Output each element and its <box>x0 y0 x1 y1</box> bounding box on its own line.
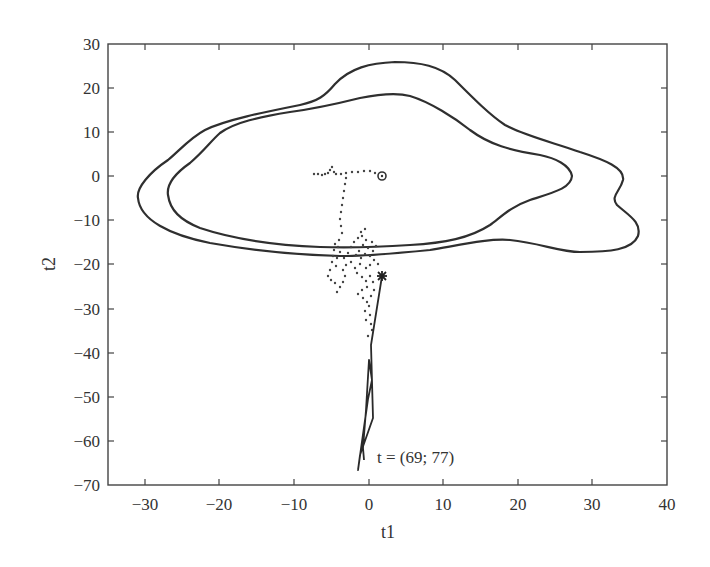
current-point-star-marker <box>377 271 387 281</box>
x-tick-label: 10 <box>435 495 452 514</box>
y-tick-label: −10 <box>73 211 100 230</box>
start-point-marker <box>378 172 386 180</box>
x-axis-label: t1 <box>381 522 395 542</box>
y-tick-label: −40 <box>73 344 100 363</box>
x-tick-label: 20 <box>510 495 527 514</box>
y-tick-label: 30 <box>83 35 100 54</box>
y-axis-label: t2 <box>39 257 59 271</box>
y-axis: 30 20 10 0 −10 −20 −30 −40 −50 −60 −70 t… <box>39 35 667 495</box>
x-tick-label: −30 <box>132 495 159 514</box>
y-tick-label: 10 <box>83 123 100 142</box>
x-tick-label: 30 <box>584 495 601 514</box>
y-tick-label: −70 <box>73 476 100 495</box>
y-tick-label: 20 <box>83 79 100 98</box>
y-tick-label: −20 <box>73 255 100 274</box>
annotation-label: t = (69; 77) <box>377 448 454 467</box>
x-tick-label: 40 <box>659 495 676 514</box>
x-tick-label: −10 <box>281 495 308 514</box>
x-axis: −30 −20 −10 0 10 20 30 40 t1 <box>132 44 676 542</box>
y-tick-label: −30 <box>73 300 100 319</box>
solid-trajectory <box>358 276 382 470</box>
scatter-trajectory-chart: −30 −20 −10 0 10 20 30 40 t1 30 20 10 0 … <box>0 0 710 567</box>
plot-frame <box>108 44 667 485</box>
x-tick-label: 0 <box>365 495 374 514</box>
x-tick-label: −20 <box>206 495 233 514</box>
dotted-trajectory <box>313 166 379 337</box>
y-tick-label: −50 <box>73 388 100 407</box>
outer-contour <box>138 62 639 256</box>
y-tick-label: −60 <box>73 432 100 451</box>
y-tick-label: 0 <box>92 167 101 186</box>
